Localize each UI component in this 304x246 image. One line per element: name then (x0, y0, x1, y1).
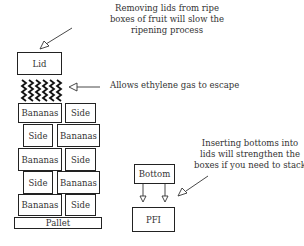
ethylene-wave-icon (22, 80, 61, 101)
arrow-to-insert-icon (178, 176, 208, 196)
insert-arrow-left-icon (140, 184, 146, 202)
arrow-to-lid-icon (40, 28, 72, 49)
insert-arrow-right-icon (162, 184, 168, 202)
arrows-layer (0, 0, 304, 246)
arrow-to-waves-icon (69, 83, 100, 91)
